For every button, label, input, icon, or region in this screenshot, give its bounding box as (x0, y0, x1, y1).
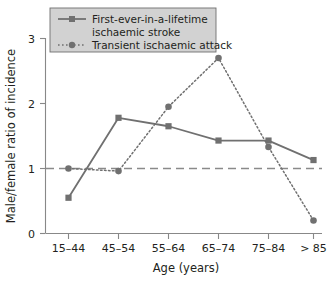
x-tick-label-0: 15–44 (52, 242, 86, 255)
legend-swatch-marker-tia (69, 42, 75, 48)
data-point-marker (215, 55, 222, 62)
data-point-marker (115, 115, 121, 121)
data-point-marker (115, 168, 122, 175)
data-point-marker (265, 144, 272, 151)
data-point-marker (215, 137, 221, 143)
y-axis-title: Male/female ratio of incidence (4, 49, 18, 223)
chart-legend: First-ever-in-a-lifetime ischaemic strok… (50, 8, 233, 52)
data-point-marker (165, 103, 172, 110)
y-tick-label-3: 3 (28, 33, 35, 46)
legend-swatch-marker-stroke (69, 16, 75, 22)
y-tick-label-1: 1 (28, 163, 35, 176)
series-ischaemic-stroke (65, 115, 316, 201)
data-point-marker (310, 157, 316, 163)
series-line (69, 118, 314, 198)
legend-label-stroke-line1: First-ever-in-a-lifetime (92, 13, 208, 25)
chart-container: 3 2 1 0 Male/female ratio of incidence 1… (0, 0, 331, 287)
y-tick-label-0: 0 (28, 228, 35, 241)
data-point-marker (265, 137, 271, 143)
x-tick-label-2: 55–64 (152, 242, 186, 255)
x-axis-title: Age (years) (153, 261, 220, 275)
x-tick-label-4: 75–84 (252, 242, 286, 255)
x-tick-label-1: 45–54 (102, 242, 136, 255)
data-point-marker (165, 123, 171, 129)
chart-figure: 3 2 1 0 Male/female ratio of incidence 1… (0, 0, 331, 287)
x-tick-label-5: > 85 (300, 242, 327, 255)
legend-label-stroke-line2: ischaemic stroke (92, 26, 180, 38)
y-tick-label-2: 2 (28, 98, 35, 111)
series-transient-ischaemic-attack (65, 55, 317, 224)
x-tick-label-3: 65–74 (202, 242, 236, 255)
legend-label-tia: Transient ischaemic attack (91, 39, 233, 51)
data-point-marker (65, 165, 72, 172)
data-point-marker (65, 195, 71, 201)
data-point-marker (310, 217, 317, 224)
